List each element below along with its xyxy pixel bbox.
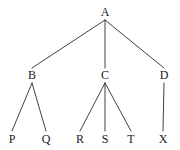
tree-node-q: Q — [38, 133, 54, 145]
tree-edge-d-x — [163, 83, 164, 131]
tree-node-c: C — [97, 69, 113, 81]
tree-node-b: B — [24, 69, 40, 81]
tree-node-r: R — [72, 133, 88, 145]
tree-node-t: T — [123, 133, 139, 145]
tree-node-s: S — [97, 133, 113, 145]
tree-node-p: P — [4, 133, 20, 145]
tree-edge-a-b — [32, 20, 105, 68]
tree-edge-c-t — [105, 83, 131, 131]
tree-diagram: ABCDPQRSTX — [0, 0, 180, 150]
tree-node-x: X — [155, 133, 171, 145]
tree-node-d: D — [156, 69, 172, 81]
tree-node-a: A — [97, 6, 113, 18]
tree-edge-c-r — [80, 83, 105, 131]
tree-edge-a-d — [105, 20, 164, 68]
tree-edge-b-p — [12, 83, 32, 131]
tree-edge-b-q — [32, 83, 46, 131]
